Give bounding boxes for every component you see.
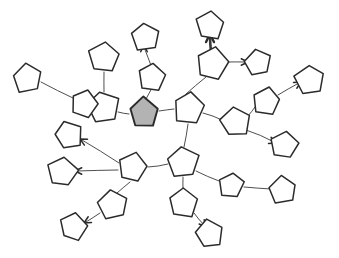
pentagon-node[interactable] [139, 63, 165, 90]
highlighted-pentagon-node[interactable] [130, 96, 157, 125]
pentagon-node[interactable] [170, 188, 197, 217]
pentagon-node[interactable] [254, 87, 279, 114]
pentagon-node[interactable] [294, 66, 323, 94]
graph-edge [246, 130, 274, 142]
graph-edge [278, 83, 299, 95]
pentagon-node[interactable] [220, 173, 245, 196]
pentagon-node[interactable] [89, 42, 119, 71]
pentagon-node[interactable] [55, 122, 81, 148]
pentagon-node[interactable] [269, 175, 295, 203]
pentagon-node[interactable] [61, 213, 88, 241]
graph-canvas [0, 0, 339, 258]
pentagon-node[interactable] [14, 63, 41, 92]
pentagon-node[interactable] [220, 107, 250, 134]
graph-edge [82, 140, 119, 163]
pentagon-graph-diagram [0, 0, 339, 258]
graph-edge [148, 164, 168, 167]
pentagon-node[interactable] [195, 219, 221, 246]
graph-edge [118, 112, 129, 114]
graph-edge [184, 124, 188, 147]
graph-edge [244, 187, 271, 189]
graph-edge [196, 171, 219, 181]
pentagon-node[interactable] [176, 92, 204, 123]
graph-edge [117, 182, 130, 193]
graph-edge [186, 77, 206, 94]
edge-arrow-icon [80, 139, 88, 145]
pentagon-node[interactable] [244, 49, 270, 74]
pentagon-node[interactable] [120, 152, 147, 181]
pentagon-node[interactable] [271, 131, 299, 157]
graph-edge [41, 82, 73, 98]
pentagon-node[interactable] [168, 147, 199, 176]
pentagon-node[interactable] [198, 47, 228, 79]
graph-edge [203, 113, 222, 120]
pentagon-node[interactable] [48, 157, 79, 184]
graph-edge [159, 109, 174, 111]
graph-edge [77, 170, 118, 171]
node-layer [14, 11, 324, 246]
pentagon-node[interactable] [132, 23, 159, 50]
pentagon-node[interactable] [196, 11, 223, 39]
pentagon-node[interactable] [97, 190, 126, 219]
